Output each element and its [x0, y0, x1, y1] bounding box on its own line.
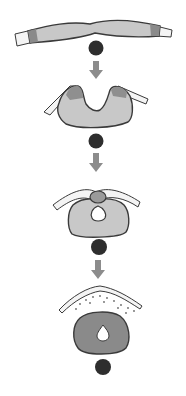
plate-edge-shade-right: [150, 24, 160, 36]
stage-2: [44, 86, 148, 149]
notochord-dot-1: [89, 41, 104, 56]
neural-crest-cap: [90, 191, 106, 203]
arrow-1: [89, 61, 103, 79]
stage-4: [59, 286, 142, 375]
notochord-dot-2: [89, 134, 104, 149]
diagram-svg: [0, 0, 186, 396]
down-arrow-icon: [89, 61, 103, 79]
down-arrow-icon: [91, 260, 105, 279]
diagram-canvas: [0, 0, 186, 396]
arrow-3: [91, 260, 105, 279]
ectoderm-arch: [59, 286, 142, 313]
notochord-dot-4: [95, 359, 111, 375]
arrow-2: [89, 153, 103, 172]
down-arrow-icon: [89, 153, 103, 172]
neural-plate: [28, 20, 160, 43]
stage-1: [15, 20, 172, 55]
notochord-dot-3: [91, 239, 107, 255]
stage-3: [53, 190, 140, 255]
